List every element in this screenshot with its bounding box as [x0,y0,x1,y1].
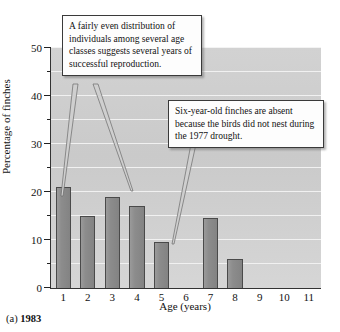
bar [203,218,218,288]
y-axis-tick [44,95,51,96]
x-axis-title: Age (years) [50,300,320,312]
bar [105,197,120,288]
absent-six-year-olds-callout: Six-year-old finches are absent because … [168,100,324,148]
y-axis-tick [44,287,51,288]
bar [154,242,169,288]
y-axis-title: Percentage of finches [0,79,12,174]
caption-prefix: (a) [6,313,18,324]
y-axis-tick-label: 20 [31,186,42,198]
y-axis-tick [44,47,51,48]
bar [227,259,242,288]
gridline [51,95,321,97]
plot-area: 010203040501234567891011 [50,48,321,289]
y-axis-minor-tick [47,263,51,264]
y-axis-minor-tick [47,71,51,72]
y-axis-tick [44,239,51,240]
y-axis-minor-tick [47,215,51,216]
y-axis-tick-label: 50 [31,42,42,54]
y-axis-tick [44,143,51,144]
bar [129,206,144,288]
callout-text: Six-year-old finches are absent because … [175,106,314,141]
y-axis-tick-label: 10 [31,234,42,246]
gridline [51,191,321,193]
finch-age-distribution-figure: Percentage of finches 010203040501234567… [0,0,340,332]
y-axis-minor-tick [47,167,51,168]
bar [56,187,71,288]
y-axis-minor-tick [47,119,51,120]
y-axis-tick-label: 30 [31,138,42,150]
gridline [51,167,321,169]
callout-text: A fairly even distribution of individual… [69,21,192,69]
caption-year: 1983 [20,313,41,324]
figure-caption: (a) 1983 [6,313,41,324]
even-distribution-callout: A fairly even distribution of individual… [62,15,202,76]
y-axis-tick [44,191,51,192]
y-axis-tick-label: 0 [37,282,43,294]
bar [80,216,95,288]
y-axis-tick-label: 40 [31,90,42,102]
